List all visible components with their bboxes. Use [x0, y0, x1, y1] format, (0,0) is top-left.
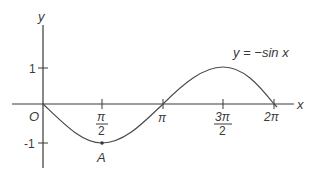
function-label: y = −sin x [232, 45, 289, 60]
three-pi-half-numerator: 3π [215, 110, 231, 124]
point-a-label: A [96, 150, 106, 165]
sine-graph: y x O 1 -1 y = −sin x π 2 π 3π 2 2π A [0, 0, 312, 172]
curve-neg-sin [43, 67, 277, 143]
three-pi-half-denominator: 2 [219, 124, 226, 138]
y-tick-neg1-label: -1 [24, 137, 35, 151]
point-a-marker [100, 141, 104, 145]
pi-half-numerator: π [97, 110, 106, 124]
origin-label: O [29, 109, 39, 124]
pi-label: π [158, 111, 167, 125]
two-pi-label: 2π [263, 110, 280, 124]
x-axis-label: x [296, 97, 304, 112]
y-axis-label: y [37, 9, 46, 24]
y-tick-1-label: 1 [29, 62, 36, 76]
pi-half-denominator: 2 [98, 124, 105, 138]
